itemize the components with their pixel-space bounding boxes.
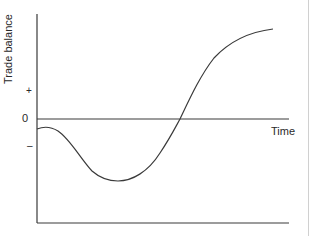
y-axis-label: Trade balance [3,14,14,84]
y-tick-plus: + [26,86,32,96]
page-edge-rule [308,0,309,236]
chart-canvas [0,0,311,236]
y-tick-zero: 0 [22,113,28,124]
trade-balance-curve [37,29,273,181]
x-axis-label: Time [271,126,295,137]
y-tick-minus: – [27,141,33,151]
